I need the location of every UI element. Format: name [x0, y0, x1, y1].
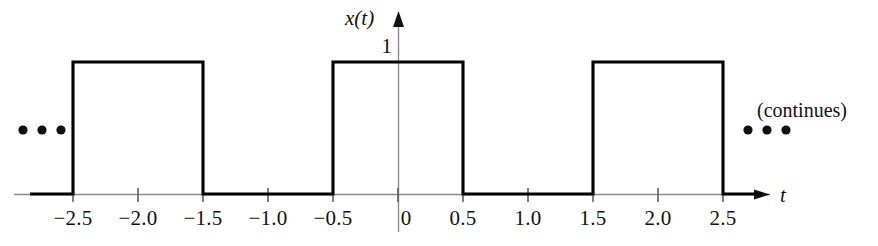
right-ellipsis-icon: [743, 125, 790, 134]
x-tick-label-1.0: 1.0: [515, 206, 542, 231]
y-axis-label: x(t): [345, 6, 374, 31]
x-tick-label--1.0: −1.0: [249, 206, 288, 231]
signal-plot-figure: x(t) 1 t −2.5 −2.0 −1.5 −1.0 −0.5 0 0.5 …: [0, 0, 878, 246]
x-tick-label-2.0: 2.0: [645, 206, 672, 231]
x-tick-label-0.5: 0.5: [450, 206, 477, 231]
x-tick-label--0.5: −0.5: [314, 206, 353, 231]
x-tick-label-2.5: 2.5: [710, 206, 737, 231]
signal-waveform: [30, 62, 762, 194]
x-tick-label--1.5: −1.5: [184, 206, 223, 231]
x-tick-label--2.5: −2.5: [54, 206, 93, 231]
amplitude-label: 1: [382, 34, 393, 59]
y-axis-arrowhead: [393, 11, 404, 27]
x-tick-label-0: 0: [401, 206, 412, 231]
left-ellipsis-icon: [18, 125, 65, 134]
continues-annotation: (continues): [757, 99, 847, 122]
x-tick-label-1.5: 1.5: [580, 206, 607, 231]
x-axis-label: t: [780, 183, 786, 208]
x-tick-label--2.0: −2.0: [119, 206, 158, 231]
